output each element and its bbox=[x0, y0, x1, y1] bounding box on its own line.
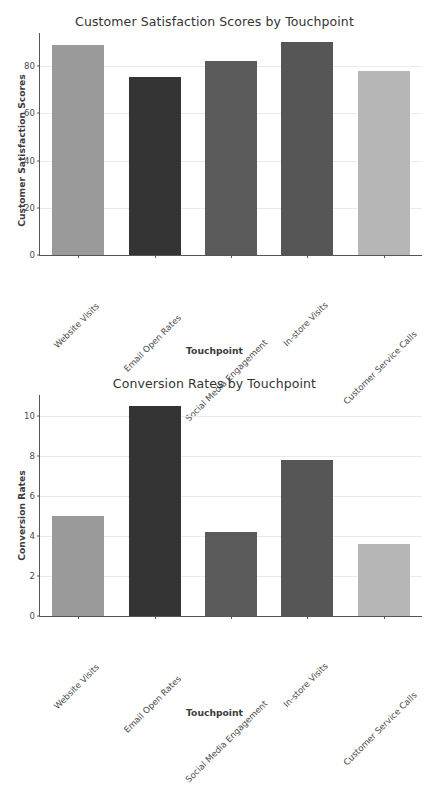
y-tick-label: 80 bbox=[24, 61, 35, 71]
gridline bbox=[40, 496, 422, 497]
y-tick-mark bbox=[37, 207, 40, 208]
x-tick-mark bbox=[78, 255, 79, 258]
x-tick-mark bbox=[384, 616, 385, 619]
x-tick-mark bbox=[155, 616, 156, 619]
x-tick-label: Website Visits bbox=[52, 662, 101, 711]
x-tick-mark bbox=[307, 616, 308, 619]
gridline bbox=[40, 416, 422, 417]
x-axis-label: Touchpoint bbox=[0, 707, 429, 718]
chart-title: Conversion Rates by Touchpoint bbox=[0, 376, 429, 391]
x-tick-label-wrapper: Customer Service Calls bbox=[413, 621, 429, 698]
y-tick-label: 0 bbox=[30, 250, 35, 260]
y-tick-mark bbox=[37, 255, 40, 256]
x-tick-label: Customer Service Calls bbox=[341, 690, 418, 767]
y-axis-label: Conversion Rates bbox=[16, 431, 27, 601]
x-tick-label-wrapper: Social Media Engagement bbox=[264, 621, 350, 707]
x-tick-label-wrapper: Website Visits bbox=[96, 260, 145, 309]
y-axis-label: Customer Satisfaction Scores bbox=[16, 51, 27, 251]
gridline bbox=[40, 456, 422, 457]
y-tick-mark bbox=[37, 456, 40, 457]
y-tick-label: 20 bbox=[24, 203, 35, 213]
bar bbox=[358, 544, 410, 616]
plot-area: 020406080Website VisitsEmail Open RatesS… bbox=[39, 33, 422, 256]
bar bbox=[129, 406, 181, 616]
bar bbox=[52, 45, 104, 255]
x-tick-label: Website Visits bbox=[52, 301, 101, 350]
y-tick-label: 8 bbox=[30, 451, 35, 461]
y-tick-label: 4 bbox=[30, 531, 35, 541]
y-tick-mark bbox=[37, 113, 40, 114]
bar bbox=[358, 71, 410, 255]
x-tick-mark bbox=[307, 255, 308, 258]
y-tick-mark bbox=[37, 576, 40, 577]
x-tick-label-wrapper: Website Visits bbox=[96, 621, 145, 670]
bar bbox=[129, 77, 181, 255]
x-tick-mark bbox=[155, 255, 156, 258]
plot-area: 0246810Website VisitsEmail Open RatesSoc… bbox=[39, 395, 422, 617]
chart-figure-conversion-rates: Conversion Rates by Touchpoint Conversio… bbox=[0, 355, 429, 715]
y-tick-label: 2 bbox=[30, 571, 35, 581]
bar bbox=[205, 532, 257, 616]
y-tick-label: 10 bbox=[24, 411, 35, 421]
x-tick-label-wrapper: Social Media Engagement bbox=[264, 260, 350, 346]
y-tick-label: 0 bbox=[30, 611, 35, 621]
y-tick-label: 6 bbox=[30, 491, 35, 501]
y-tick-mark bbox=[37, 536, 40, 537]
y-tick-mark bbox=[37, 496, 40, 497]
bar bbox=[281, 42, 333, 255]
x-tick-mark bbox=[231, 255, 232, 258]
x-tick-label-wrapper: Email Open Rates bbox=[177, 260, 238, 321]
y-tick-mark bbox=[37, 160, 40, 161]
x-tick-mark bbox=[384, 255, 385, 258]
x-tick-mark bbox=[78, 616, 79, 619]
y-tick-label: 40 bbox=[24, 156, 35, 166]
bar bbox=[281, 460, 333, 616]
y-tick-mark bbox=[37, 66, 40, 67]
chart-title: Customer Satisfaction Scores by Touchpoi… bbox=[0, 14, 429, 29]
bar bbox=[205, 61, 257, 255]
bar bbox=[52, 516, 104, 616]
x-tick-label-wrapper: Customer Service Calls bbox=[413, 260, 429, 337]
y-tick-mark bbox=[37, 416, 40, 417]
x-tick-label-wrapper: Email Open Rates bbox=[177, 621, 238, 682]
x-tick-mark bbox=[231, 616, 232, 619]
y-tick-mark bbox=[37, 616, 40, 617]
y-tick-label: 60 bbox=[24, 108, 35, 118]
chart-figure-customer-satisfaction: Customer Satisfaction Scores by Touchpoi… bbox=[0, 0, 429, 360]
x-tick-label: Email Open Rates bbox=[122, 674, 183, 735]
